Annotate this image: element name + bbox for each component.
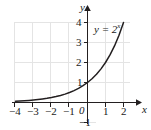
ytick-label-1: 1 <box>77 77 83 88</box>
ytick-label-neg1: −1 <box>79 117 91 128</box>
ytick-label-4: 4 <box>76 17 82 28</box>
xtick-label-neg3: −3 <box>27 106 39 117</box>
x-axis-label: x <box>142 104 147 115</box>
xtick-label-neg1: −1 <box>63 106 75 117</box>
curve-equation-label: y = 2x <box>94 23 120 35</box>
curve-equation-base: y = 2 <box>94 23 117 35</box>
ytick-label-2: 2 <box>76 57 82 68</box>
exponential-function-graph: −4 −3 −2 −1 0 1 2 4 3 2 1 −1 y x y = 2x <box>0 0 151 130</box>
xtick-label-neg4: −4 <box>9 106 21 117</box>
y-axis-label: y <box>80 2 85 13</box>
xtick-label-2: 2 <box>121 106 127 117</box>
xtick-label-origin: 0 <box>79 105 85 116</box>
ytick-label-3: 3 <box>76 37 82 48</box>
xtick-label-neg2: −2 <box>45 106 57 117</box>
y-axis-arrowhead <box>84 5 91 11</box>
curve-equation-exponent: x <box>117 22 120 30</box>
xtick-label-1: 1 <box>103 106 109 117</box>
